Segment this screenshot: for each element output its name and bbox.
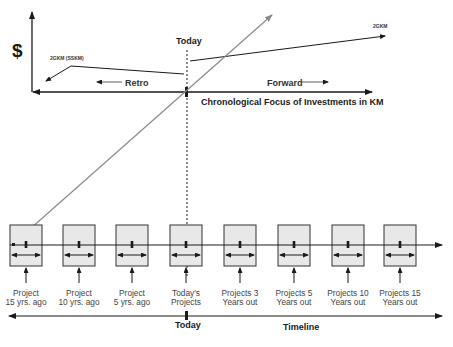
retro-label: Retro: [125, 78, 149, 88]
project-label-line2: Years out: [318, 298, 378, 307]
project-label: Today'sProjects: [156, 289, 216, 307]
project-label-line2: Years out: [370, 298, 430, 307]
left-series-label: 2GKM (SSKM): [50, 55, 84, 61]
project-label: Projects 10Years out: [318, 289, 378, 307]
project-box: [116, 225, 148, 283]
project-box: [10, 225, 42, 283]
project-label: Project10 yrs. ago: [49, 289, 109, 307]
project-label-line2: 10 yrs. ago: [49, 298, 109, 307]
project-label-line2: Years out: [264, 298, 324, 307]
project-box: [384, 225, 416, 283]
forward-label: Forward: [267, 78, 303, 88]
retro-investment-line: [46, 66, 184, 81]
project-box: [224, 225, 256, 283]
project-label: Projects 5Years out: [264, 289, 324, 307]
right-series-label: 2GKM: [373, 23, 387, 29]
forward-investment-line: [190, 36, 385, 61]
project-box: [332, 225, 364, 283]
today-tick-bottom: [185, 311, 188, 320]
diagonal-trend-line: [13, 15, 272, 244]
project-label-line2: 5 yrs. ago: [102, 298, 162, 307]
project-label: Project15 yrs. ago: [0, 289, 56, 307]
project-label: Projects 3Years out: [210, 289, 270, 307]
today-label-top: Today: [176, 36, 202, 46]
today-label-bottom: Today: [175, 320, 201, 330]
project-label-line2: 15 yrs. ago: [0, 298, 56, 307]
project-label: Projects 15Years out: [370, 289, 430, 307]
project-box: [63, 225, 95, 283]
project-box: [170, 225, 202, 283]
x-axis-title: Chronological Focus of Investments in KM: [201, 97, 384, 107]
project-label-line2: Projects: [156, 298, 216, 307]
timeline-title: Timeline: [283, 322, 319, 332]
project-label: Project5 yrs. ago: [102, 289, 162, 307]
project-box: [278, 225, 310, 283]
y-axis-label: $: [12, 40, 23, 62]
project-label-line2: Years out: [210, 298, 270, 307]
